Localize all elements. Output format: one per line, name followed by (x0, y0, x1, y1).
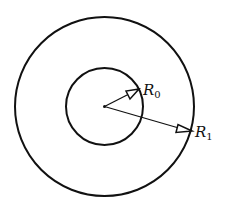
r0-label: R0 (142, 81, 161, 100)
r1-arrow (105, 107, 193, 133)
r0-arrow (105, 89, 140, 107)
concentric-circles-diagram: R0 R1 (0, 0, 226, 211)
r1-label: R1 (194, 123, 213, 142)
